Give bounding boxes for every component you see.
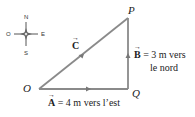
point-o-label: O [23,83,31,94]
compass-rose-icon [14,22,38,46]
compass-west-label: O [6,31,11,37]
vector-a-symbol: A [48,97,55,108]
vector-b-label: B = 3 m vers [134,49,186,60]
compass-south-label: S [24,50,28,56]
vector-c-symbol: C [72,40,79,51]
vector-b-arrow-icon [126,53,131,58]
vector-b-text: = 3 m vers [143,49,186,60]
vector-a-text: = 4 m vers l’est [58,97,120,108]
vector-a-arrow-icon [86,87,91,92]
point-q-label: Q [132,88,140,99]
vector-c-line [39,18,128,89]
vector-b-symbol: B [134,49,141,60]
vector-a-label: A = 4 m vers l’est [48,97,120,108]
compass-north-label: N [24,14,28,20]
compass-east-label: E [41,31,45,37]
vector-c-label: C [72,40,79,51]
point-p-label: P [128,5,135,16]
vector-b-text-line2: le nord [150,62,178,73]
